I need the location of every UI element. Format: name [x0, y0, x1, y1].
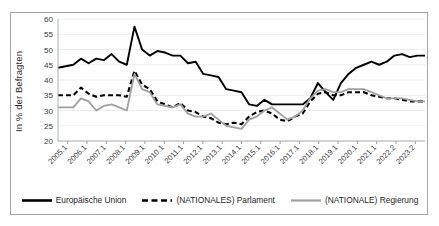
- x-tick-label: 2015.1: [239, 143, 262, 166]
- x-tick-label: 2023.2: [394, 143, 417, 166]
- x-tick-label: 2018.1: [297, 143, 320, 166]
- plot-area: In % der Befragten 202530354045505560 20…: [11, 13, 429, 216]
- series-line: [58, 71, 425, 124]
- y-tick-label: 40: [44, 76, 54, 85]
- legend-item-eu: Europäische Union: [22, 195, 127, 205]
- series-line: [58, 27, 425, 106]
- x-tick-label: 2012.1: [181, 143, 204, 166]
- x-tick-label: 2013.1: [201, 143, 224, 166]
- y-tick-label: 25: [44, 122, 54, 131]
- x-tick-label: 2016.1: [259, 143, 282, 166]
- x-tick-label: 2008.1: [104, 143, 127, 166]
- x-tick-label: 2005.1: [46, 143, 69, 166]
- x-tick-label: 2010.1: [143, 143, 166, 166]
- x-tick-label: 2017.1: [278, 143, 301, 166]
- x-tick-label: 2021.1: [355, 143, 378, 166]
- x-tick-label: 2020.1: [336, 143, 359, 166]
- y-tick-label: 60: [44, 15, 54, 24]
- series-line: [58, 74, 425, 129]
- data-series: [58, 27, 425, 129]
- x-tick-label: 2009.1: [124, 143, 147, 166]
- y-tick-label: 55: [44, 30, 54, 39]
- legend-label-eu: Europäische Union: [56, 195, 127, 205]
- y-tick-label: 45: [44, 61, 54, 70]
- legend-swatch-dashed-black: [142, 196, 172, 205]
- x-tick-label: 2006.1: [66, 143, 89, 166]
- x-tick-labels: 2005.12006.12007.12008.12009.12010.12011…: [46, 143, 416, 166]
- x-tick-label: 2011.1: [163, 143, 185, 165]
- legend-swatch-solid-gray: [291, 196, 321, 205]
- x-tick-label: 2014.1: [220, 143, 243, 166]
- legend-label-regierung: (NATIONALE) Regierung: [325, 195, 418, 205]
- line-chart-svg: 202530354045505560 2005.12006.12007.1200…: [11, 13, 429, 173]
- y-tick-labels: 202530354045505560: [44, 15, 54, 146]
- x-tick-label: 2019.1: [317, 143, 340, 166]
- chart-figure: In % der Befragten 202530354045505560 20…: [10, 12, 428, 215]
- gridlines: [58, 19, 425, 141]
- legend-swatch-solid-black: [22, 196, 52, 205]
- x-tick-label: 2022.2: [375, 143, 398, 166]
- legend-item-regierung: (NATIONALE) Regierung: [291, 195, 418, 205]
- y-tick-label: 35: [44, 91, 54, 100]
- legend-item-parlament: (NATIONALES) Parlament: [142, 195, 275, 205]
- y-tick-label: 20: [44, 137, 54, 146]
- y-tick-label: 30: [44, 107, 54, 116]
- x-tick-label: 2007.1: [85, 143, 108, 166]
- legend-label-parlament: (NATIONALES) Parlament: [176, 195, 275, 205]
- chart-legend: Europäische Union (NATIONALES) Parlament…: [11, 195, 429, 205]
- y-tick-label: 50: [44, 46, 54, 55]
